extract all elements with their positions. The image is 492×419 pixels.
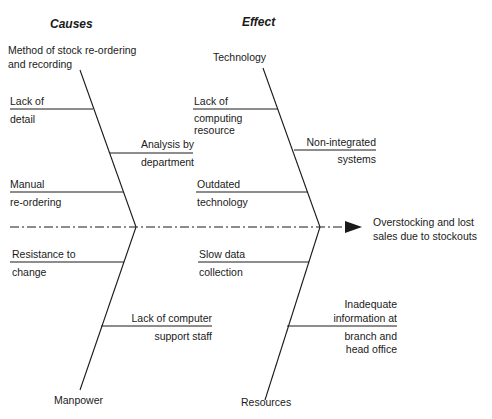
cause-outdated-line1: Outdated <box>197 177 240 191</box>
cause-manual-line2: re-ordering <box>10 195 61 209</box>
method-spine <box>80 70 136 227</box>
cause-lack-of-detail-line1: Lack of <box>10 94 44 108</box>
effect-header: Effect <box>242 15 275 29</box>
effect-line1: Overstocking and lost <box>373 215 477 229</box>
cause-inadequate-line2: information at <box>333 311 397 325</box>
category-manpower: Manpower <box>54 393 103 407</box>
cause-resistance-line1: Resistance to <box>12 247 76 261</box>
cause-support-staff-line1: Lack of computer <box>131 311 212 325</box>
cause-non-integrated-line1: Non-integrated <box>307 135 376 149</box>
cause-slow-data-line2: collection <box>199 265 243 279</box>
manpower-spine <box>80 227 136 390</box>
cause-analysis-line1: Analysis by <box>141 137 194 151</box>
cause-outdated-line2: technology <box>197 195 248 209</box>
cause-inadequate-line1: Inadequate <box>344 297 397 311</box>
cause-lack-computing-line1: Lack of <box>194 94 228 108</box>
cause-manual-line1: Manual <box>10 177 44 191</box>
category-method: Method of stock re-ordering and recordin… <box>8 43 136 71</box>
cause-lack-of-detail-line2: detail <box>10 112 35 126</box>
cause-slow-data-line1: Slow data <box>199 247 245 261</box>
effect-line2: sales due to stockouts <box>373 229 477 243</box>
cause-analysis-line2: department <box>141 155 194 169</box>
cause-inadequate-line3: branch and <box>344 329 397 343</box>
category-method-line2: and recording <box>8 57 136 71</box>
effect-label: Overstocking and lost sales due to stock… <box>373 215 477 243</box>
cause-support-staff-line2: support staff <box>154 329 212 343</box>
category-technology: Technology <box>213 50 266 64</box>
causes-header: Causes <box>50 17 93 31</box>
category-resources: Resources <box>241 395 291 409</box>
cause-inadequate-line4: head office <box>346 342 397 356</box>
category-method-line1: Method of stock re-ordering <box>8 43 136 57</box>
resources-spine <box>265 227 320 400</box>
cause-lack-computing-line3: resource <box>194 123 235 137</box>
arrowhead-icon <box>345 221 362 233</box>
cause-non-integrated-line2: systems <box>337 152 376 166</box>
cause-resistance-line2: change <box>12 265 46 279</box>
